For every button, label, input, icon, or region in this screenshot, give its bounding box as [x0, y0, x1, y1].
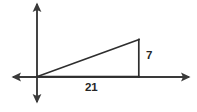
right-triangle — [38, 40, 140, 78]
triangle-hypotenuse — [38, 40, 140, 77]
height-label: 7 — [146, 49, 152, 61]
y-axis — [33, 3, 42, 104]
geometry-figure: 7 21 — [0, 0, 197, 112]
base-label: 21 — [85, 81, 98, 93]
triangle-diagram-svg: 7 21 — [0, 0, 197, 112]
